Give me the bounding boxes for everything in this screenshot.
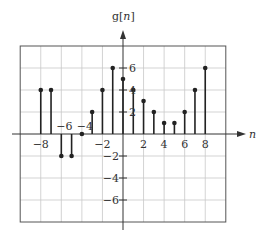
stem	[100, 88, 105, 134]
stem-marker	[38, 88, 43, 93]
x-tick-label: 6	[181, 138, 188, 151]
stem	[152, 110, 157, 134]
stem	[193, 88, 198, 134]
stem-marker	[162, 121, 167, 126]
x-tick-label: 8	[202, 138, 209, 151]
plot-canvas: −8−6−4−22468−6−4−2246 g[n] n	[0, 0, 270, 240]
stem-marker	[152, 110, 157, 115]
y-tick-label: 4	[129, 84, 136, 97]
stem	[141, 99, 146, 134]
stem	[182, 110, 187, 134]
stem-marker	[49, 88, 54, 93]
x-axis-label: n	[249, 128, 256, 141]
x-axis-arrow-icon	[237, 131, 246, 137]
stem-marker	[182, 110, 187, 115]
y-axis-label: g[n]	[112, 10, 135, 23]
stem-marker	[100, 88, 105, 93]
x-tick-label: −8	[33, 138, 49, 151]
y-tick-label: 6	[129, 62, 136, 75]
stem-marker	[90, 110, 95, 115]
stem	[49, 88, 54, 134]
stem	[162, 121, 167, 134]
stem-marker	[121, 77, 126, 82]
x-tick-label: −6	[56, 120, 72, 133]
y-tick-label: −2	[103, 150, 119, 163]
stem	[59, 134, 64, 158]
x-tick-label: −4	[77, 120, 93, 133]
stem	[38, 88, 43, 134]
y-tick-label: −6	[103, 194, 119, 207]
y-tick-label: 2	[129, 106, 136, 119]
stem-marker	[193, 88, 198, 93]
stem	[121, 77, 126, 134]
stem-marker	[141, 99, 146, 104]
y-tick-label: −4	[103, 172, 119, 185]
stem-marker	[203, 66, 208, 71]
stem-marker	[172, 121, 177, 126]
stem	[69, 134, 74, 158]
stem	[110, 66, 115, 134]
y-axis-arrow-icon	[120, 30, 126, 39]
stem-marker	[110, 66, 115, 71]
stem	[172, 121, 177, 134]
x-tick-label: 4	[161, 138, 168, 151]
stem-marker	[69, 154, 74, 159]
stem-plot: −8−6−4−22468−6−4−2246 g[n] n	[0, 0, 270, 240]
stem-marker	[59, 154, 64, 159]
stem	[203, 66, 208, 134]
x-tick-label: 2	[140, 138, 147, 151]
